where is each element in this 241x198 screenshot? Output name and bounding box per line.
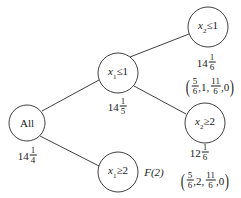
node-x2le1-label: x2≤1 bbox=[198, 19, 218, 34]
node-x1ge2-note: F(2) bbox=[144, 166, 164, 178]
node-root-value: 14 14 bbox=[18, 146, 37, 165]
edge-root-x1ge2 bbox=[40, 136, 99, 166]
node-x2ge2-value: 12 16 bbox=[190, 143, 209, 162]
node-root-label: All bbox=[20, 117, 34, 129]
node-x1le1-value: 14 15 bbox=[108, 97, 127, 116]
edge-x1le1-x2le1 bbox=[130, 34, 189, 57]
node-x2ge2-solution: ( 56 ,2, 116 ,0 ) bbox=[180, 171, 230, 190]
edge-x1le1-x2ge2 bbox=[134, 86, 186, 114]
node-x1le1-label: x1≤1 bbox=[108, 65, 128, 80]
edge-root-x1le1 bbox=[42, 80, 99, 111]
node-x1ge2-label: x1≥2 bbox=[108, 164, 128, 179]
node-x2ge2-label: x2≥2 bbox=[195, 115, 215, 130]
node-x2le1-solution: ( 56 ,1, 116 ,0 ) bbox=[185, 77, 235, 96]
node-x2le1-value: 14 16 bbox=[197, 53, 216, 72]
